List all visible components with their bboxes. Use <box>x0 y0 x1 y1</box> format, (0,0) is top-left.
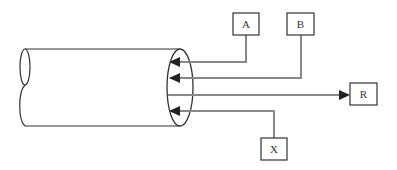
pipe-cylinder <box>20 49 193 126</box>
arrow-r-icon <box>339 90 350 100</box>
node-a-label: A <box>242 18 250 30</box>
connector-r <box>168 90 350 100</box>
diagram-canvas: A B R X <box>0 0 397 170</box>
node-r-label: R <box>360 88 368 100</box>
node-x-label: X <box>270 143 278 155</box>
node-a: A <box>233 13 259 35</box>
node-b-label: B <box>297 18 304 30</box>
node-r: R <box>350 83 377 105</box>
node-x: X <box>261 138 287 160</box>
node-b: B <box>287 13 314 35</box>
pipe-left-end <box>20 49 30 85</box>
